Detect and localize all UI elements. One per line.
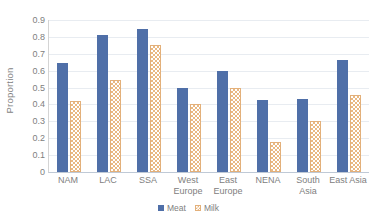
x-axis-tick-label: East Asia bbox=[328, 175, 368, 205]
bar-milk[interactable] bbox=[70, 101, 81, 172]
bar-meat[interactable] bbox=[97, 35, 108, 172]
bar-milk[interactable] bbox=[150, 45, 161, 172]
x-axis-tick-label: East Europe bbox=[208, 175, 248, 205]
legend-item[interactable]: Meat bbox=[158, 203, 186, 213]
bar-group bbox=[329, 20, 369, 172]
y-axis-tick-label: 0.4 bbox=[32, 99, 45, 109]
y-axis-tick-label: 0 bbox=[40, 167, 45, 177]
milk-swatch-icon bbox=[195, 205, 201, 211]
x-axis-tick-label: West Europe bbox=[168, 175, 208, 205]
bar-group bbox=[129, 20, 169, 172]
y-axis-tick-label: 0.9 bbox=[32, 15, 45, 25]
y-axis-tick-label: 0.8 bbox=[32, 32, 45, 42]
bar-meat[interactable] bbox=[57, 63, 68, 172]
y-axis-tick-label: 0.6 bbox=[32, 66, 45, 76]
bar-milk[interactable] bbox=[230, 88, 241, 172]
y-axis-title-text: Proportion bbox=[5, 67, 16, 113]
bar-group bbox=[49, 20, 89, 172]
bar-meat[interactable] bbox=[217, 71, 228, 172]
legend-item[interactable]: Milk bbox=[195, 203, 219, 213]
bar-meat[interactable] bbox=[297, 99, 308, 172]
bar-milk[interactable] bbox=[350, 95, 361, 172]
bar-meat[interactable] bbox=[177, 88, 188, 172]
legend-item-label: Meat bbox=[167, 203, 186, 213]
plot-area bbox=[48, 20, 369, 173]
bars-layer bbox=[49, 20, 369, 172]
y-axis-tick-label: 0.3 bbox=[32, 116, 45, 126]
x-axis-tick-label: SSA bbox=[128, 175, 168, 205]
y-axis-tick-label: 0.7 bbox=[32, 49, 45, 59]
chart-legend: MeatMilk bbox=[0, 203, 377, 213]
bar-meat[interactable] bbox=[257, 100, 268, 172]
x-axis-tick-label: NAM bbox=[48, 175, 88, 205]
y-axis-tick-label: 0.5 bbox=[32, 83, 45, 93]
bar-group bbox=[209, 20, 249, 172]
bar-chart: Proportion 0.90.80.70.60.50.40.30.20.10 … bbox=[0, 0, 377, 223]
bar-milk[interactable] bbox=[310, 121, 321, 172]
bar-meat[interactable] bbox=[337, 60, 348, 172]
x-axis-tick-label: LAC bbox=[88, 175, 128, 205]
bar-milk[interactable] bbox=[110, 80, 121, 172]
x-axis-tick-label: NENA bbox=[248, 175, 288, 205]
bar-group bbox=[169, 20, 209, 172]
bar-group bbox=[249, 20, 289, 172]
y-axis-tick-label: 0.2 bbox=[32, 133, 45, 143]
y-axis-tick-labels: 0.90.80.70.60.50.40.30.20.10 bbox=[18, 20, 48, 172]
bar-milk[interactable] bbox=[270, 142, 281, 172]
bar-group bbox=[289, 20, 329, 172]
x-axis-tick-label: South Asia bbox=[288, 175, 328, 205]
bar-group bbox=[89, 20, 129, 172]
legend-item-label: Milk bbox=[204, 203, 219, 213]
x-axis-tick-labels: NAMLACSSAWest EuropeEast EuropeNENASouth… bbox=[48, 175, 368, 205]
bar-meat[interactable] bbox=[137, 29, 148, 172]
bar-milk[interactable] bbox=[190, 104, 201, 172]
y-axis-title: Proportion bbox=[0, 0, 20, 180]
y-axis-tick-label: 0.1 bbox=[32, 150, 45, 160]
meat-swatch-icon bbox=[158, 205, 164, 211]
